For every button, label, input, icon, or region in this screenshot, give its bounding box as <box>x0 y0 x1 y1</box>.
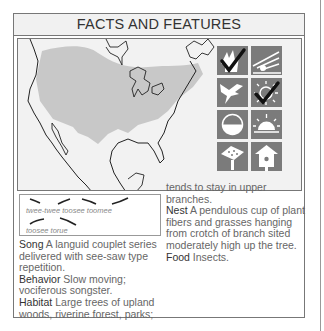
song-fact: Song A languid couplet series delivered … <box>19 239 169 274</box>
half-moon-icon <box>217 110 248 139</box>
open-habitat-icon <box>251 46 282 75</box>
behavior-label: Behavior <box>19 273 60 285</box>
food-label: Food <box>166 251 190 263</box>
facts-column-right: tends to stay in upper branches. Nest A … <box>166 182 306 263</box>
song-notation-box: twee-twee toosee toomee toosee torue <box>19 194 161 236</box>
range-map <box>17 38 302 191</box>
habitat-label: Habitat <box>19 296 52 308</box>
woodland-habitat-icon <box>217 46 248 75</box>
nest-text: A pendulous cup of plant fibers and gras… <box>166 204 305 251</box>
nest-label: Nest <box>166 204 188 216</box>
sunrise-icon <box>251 110 282 139</box>
song-syllables-line2: toosee torue <box>26 226 68 235</box>
food-fact: Food Insects. <box>166 252 306 264</box>
birdhouse-icon <box>251 142 282 171</box>
sun-resident-icon <box>251 78 282 107</box>
card-title: FACTS AND FEATURES <box>14 14 304 36</box>
habitat-continued: tends to stay in upper branches. <box>166 182 306 205</box>
nest-fact: Nest A pendulous cup of plant fibers and… <box>166 205 306 251</box>
feeder-icon <box>217 142 248 171</box>
behavior-fact: Behavior Slow moving; vociferous songste… <box>19 274 169 297</box>
facts-card: FACTS AND FEATURES <box>13 13 305 318</box>
flying-bird-icon <box>217 78 248 107</box>
song-syllables-line1: twee-twee toosee toomee <box>26 206 112 215</box>
song-label: Song <box>19 238 44 250</box>
habitat-fact: Habitat Large trees of upland woods, riv… <box>19 297 169 320</box>
food-text: Insects. <box>190 251 229 263</box>
page-edge-divider <box>320 0 321 331</box>
facts-column-left: Song A languid couplet series delivered … <box>19 239 169 320</box>
